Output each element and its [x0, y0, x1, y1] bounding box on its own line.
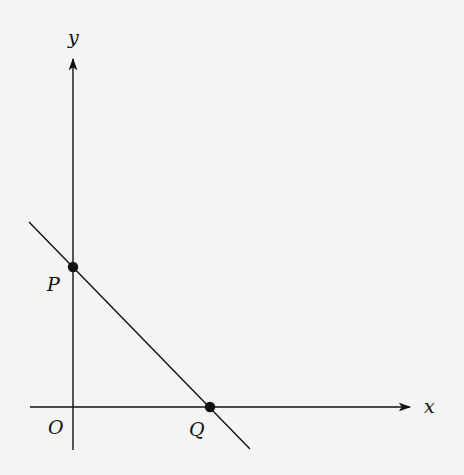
point-q-label: Q — [189, 418, 205, 440]
y-axis-label: y — [67, 26, 79, 48]
point-p — [68, 262, 78, 272]
diagram-canvas: y x O P Q — [0, 0, 464, 475]
x-axis-label: x — [424, 395, 435, 417]
line-pq — [29, 222, 250, 449]
origin-label: O — [48, 416, 64, 438]
point-p-label: P — [46, 273, 61, 295]
point-q — [205, 402, 215, 412]
